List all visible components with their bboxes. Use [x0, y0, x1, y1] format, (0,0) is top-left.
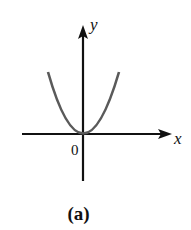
origin-label: 0 — [71, 142, 79, 158]
parabola-diagram: y x 0 — [0, 0, 191, 230]
y-axis-label: y — [88, 15, 98, 34]
figure-caption: (a) — [0, 203, 157, 225]
x-axis-label: x — [173, 129, 182, 148]
